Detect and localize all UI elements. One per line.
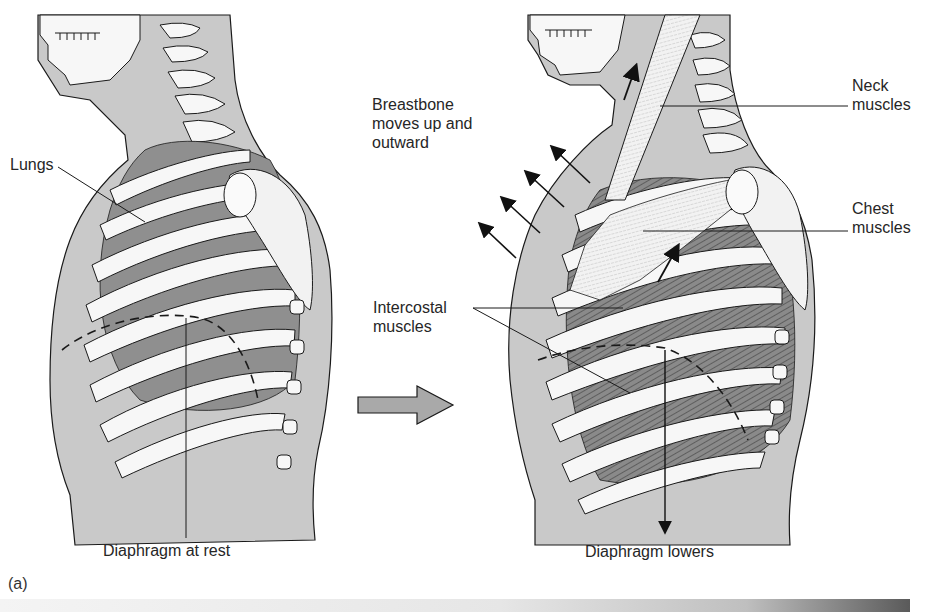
right-torso [473,15,848,545]
diaphragm-lowers-label: Diaphragm lowers [585,542,714,561]
lungs-label: Lungs [10,155,54,174]
diaphragm-at-rest-label: Diaphragm at rest [103,541,230,560]
anatomy-illustration [0,0,937,612]
breastbone-label: Breastbone moves up and outward [372,95,473,152]
chest-muscles-label: Chest muscles [852,199,911,237]
humerus-head-right [726,170,758,214]
intercostal-muscles-label: Intercostal muscles [373,298,447,336]
page-edge-shadow [0,599,910,612]
breathing-mechanics-figure: Lungs Diaphragm at rest Breastbone moves… [0,0,937,612]
neck-muscles-label: Neck muscles [852,76,911,114]
breastbone-arrow-icon [480,224,516,258]
left-torso [38,15,332,545]
panel-label: (a) [8,575,28,593]
humerus-head-left [224,173,256,217]
transition-arrow-icon [358,386,453,424]
